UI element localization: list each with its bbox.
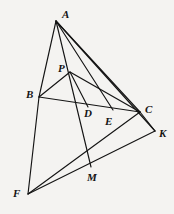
vertex-label-f: F bbox=[13, 188, 20, 199]
geometry-figure: APBDCEKMF bbox=[0, 0, 174, 214]
segment-A-M bbox=[56, 21, 91, 167]
vertex-label-c: C bbox=[145, 104, 152, 115]
segment-B-F bbox=[28, 97, 39, 194]
vertex-label-d: D bbox=[84, 108, 92, 119]
vertex-label-m: M bbox=[87, 172, 97, 183]
vertex-label-k: K bbox=[159, 128, 166, 139]
segment-F-K bbox=[28, 131, 155, 194]
vertex-label-b: B bbox=[26, 89, 33, 100]
vertex-label-a: A bbox=[62, 9, 69, 20]
vertex-label-p: P bbox=[58, 63, 65, 74]
vertex-label-e: E bbox=[105, 116, 112, 127]
segment-F-C bbox=[28, 112, 140, 194]
